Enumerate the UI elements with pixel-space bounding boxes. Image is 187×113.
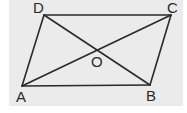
edge-bc [150,15,171,85]
vertex-label-d: D [33,0,44,16]
edge-da [22,15,44,86]
diagonal-bd [44,15,150,85]
vertex-label-a: A [16,88,26,105]
vertex-label-c: C [167,0,178,16]
intersection-label-o: O [91,53,103,70]
edge-ab [22,85,150,86]
parallelogram-diagram: D C O A B [0,0,187,113]
vertex-label-b: B [146,87,156,104]
